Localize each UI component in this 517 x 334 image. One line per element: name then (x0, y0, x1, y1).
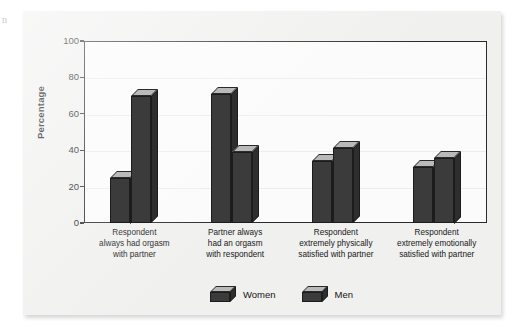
bar-women-group-2 (211, 94, 231, 223)
category-label-line: had an orgasm (181, 238, 290, 249)
category-label-line: extremely physically (282, 238, 391, 249)
bar-side-face (151, 89, 158, 223)
bar-side-face (353, 141, 360, 223)
bar-men-group-1 (131, 96, 151, 223)
legend-label: Men (335, 289, 353, 300)
category-label-line: extremely emotionally (382, 238, 491, 249)
bar-front-face (110, 178, 130, 224)
category-label-line: satisfied with partner (382, 249, 491, 260)
category-label-2: Partner alwayshad an orgasmwith responde… (181, 227, 290, 261)
y-tick-label: 20 (45, 182, 79, 192)
category-label-line: Respondent (382, 227, 491, 238)
bar-front-face (413, 167, 433, 223)
bar-side-face (252, 145, 259, 223)
legend-swatch-front (210, 292, 230, 302)
y-tick-label: 40 (45, 145, 79, 155)
bar-side-face (454, 151, 461, 224)
y-tick-label: 60 (45, 109, 79, 119)
bar-front-face (333, 148, 353, 223)
x-axis-category-labels: Respondentalways had orgasmwith partnerP… (84, 227, 487, 273)
bar-women-group-3 (312, 161, 332, 223)
category-label-1: Respondentalways had orgasmwith partner (80, 227, 189, 261)
legend-swatch-front (302, 292, 322, 302)
legend-swatch-icon (302, 286, 328, 302)
category-label-3: Respondentextremely physicallysatisfied … (282, 227, 391, 261)
bar-women-group-4 (413, 167, 433, 223)
bar-front-face (434, 158, 454, 224)
page-edge-artifact: n (2, 14, 7, 25)
bar-front-face (232, 152, 252, 223)
legend-label: Women (243, 289, 276, 300)
category-label-line: with respondent (181, 249, 290, 260)
y-tick-label: 100 (45, 36, 79, 46)
bar-front-face (131, 96, 151, 223)
bar-women-group-1 (110, 178, 130, 224)
y-tick-label: 80 (45, 72, 79, 82)
category-label-line: Respondent (282, 227, 391, 238)
bar-front-face (312, 161, 332, 223)
y-tick-label: 0 (45, 218, 79, 228)
category-label-line: Partner always (181, 227, 290, 238)
bar-men-group-3 (333, 148, 353, 223)
bar-men-group-4 (434, 158, 454, 224)
legend-item-women[interactable]: Women (210, 286, 276, 302)
bars-layer (84, 41, 487, 223)
category-label-line: always had orgasm (80, 238, 189, 249)
figure-root: n Percentage 020406080100 Respondentalwa… (0, 0, 517, 334)
figure-card: Percentage 020406080100 Respondentalways… (23, 11, 501, 315)
chart-legend: WomenMen (23, 286, 517, 302)
category-label-line: with partner (80, 249, 189, 260)
category-label-line: satisfied with partner (282, 249, 391, 260)
legend-item-men[interactable]: Men (302, 286, 353, 302)
bar-men-group-2 (232, 152, 252, 223)
category-label-4: Respondentextremely emotionallysatisfied… (382, 227, 491, 261)
bar-front-face (211, 94, 231, 223)
category-label-line: Respondent (80, 227, 189, 238)
legend-swatch-icon (210, 286, 236, 302)
